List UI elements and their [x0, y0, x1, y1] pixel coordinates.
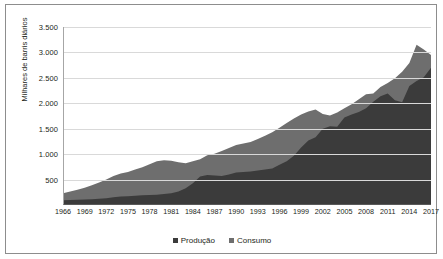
- y-axis-tick-labels: 5001.0001.5002.0002.5003.0003.500: [6, 27, 58, 205]
- x-axis-tick-label: 1966: [55, 207, 71, 216]
- x-axis-tick-label: 2011: [380, 207, 395, 216]
- area-series-group: [63, 27, 431, 205]
- y-axis-tick-label: 3.000: [39, 48, 58, 57]
- legend-label: Consumo: [237, 236, 271, 245]
- legend-label: Produção: [181, 236, 215, 245]
- x-axis-tick-label: 1990: [228, 207, 244, 216]
- x-axis-tick-label: 1984: [185, 207, 201, 216]
- legend-swatch-icon: [229, 238, 234, 243]
- x-axis-tick-label: 1996: [271, 207, 287, 216]
- gridline: [63, 27, 431, 28]
- x-axis-tick-label: 2014: [401, 207, 417, 216]
- x-axis-tick-label: 2002: [315, 207, 331, 216]
- chart-frame: Milhares de barris diários 5001.0001.500…: [5, 4, 437, 254]
- x-axis-tick-labels: 1966196919721975197819811984198719901993…: [63, 207, 431, 221]
- gridline: [63, 129, 431, 130]
- x-axis-tick-label: 1972: [98, 207, 114, 216]
- legend-item: Produção: [173, 236, 215, 245]
- x-axis-tick-label: 1978: [142, 207, 158, 216]
- gridline: [63, 180, 431, 181]
- x-axis-tick-label: 2005: [336, 207, 352, 216]
- x-axis-tick-label: 1993: [250, 207, 266, 216]
- y-axis-tick-label: 2.500: [39, 73, 58, 82]
- gridline: [63, 78, 431, 79]
- gridline: [63, 103, 431, 104]
- gridline: [63, 52, 431, 53]
- legend-swatch-icon: [173, 238, 178, 243]
- gridline: [63, 154, 431, 155]
- x-axis-tick-label: 2008: [358, 207, 374, 216]
- x-axis-tick-label: 1999: [293, 207, 309, 216]
- x-axis-tick-label: 1987: [207, 207, 223, 216]
- y-axis-tick-label: 1.000: [39, 150, 58, 159]
- x-axis-tick-label: 2017: [423, 207, 439, 216]
- x-axis-tick-label: 1981: [163, 207, 179, 216]
- plot-area: [63, 27, 431, 205]
- chart-legend: ProduçãoConsumo: [6, 236, 438, 245]
- y-axis-tick-label: 2.000: [39, 99, 58, 108]
- y-axis-tick-label: 3.500: [39, 23, 58, 32]
- x-axis-tick-label: 1969: [77, 207, 93, 216]
- y-axis-tick-label: 500: [45, 175, 58, 184]
- x-axis-tick-label: 1975: [120, 207, 136, 216]
- legend-item: Consumo: [229, 236, 271, 245]
- y-axis-tick-label: 1.500: [39, 124, 58, 133]
